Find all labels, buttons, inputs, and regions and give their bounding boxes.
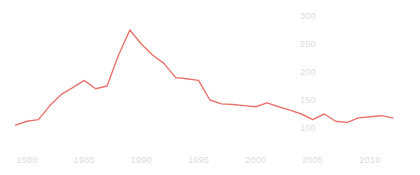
- data-line-series-1: [16, 30, 393, 125]
- y-tick-label-250: 250: [300, 39, 316, 49]
- x-tick-label-1990: 1990: [131, 155, 152, 165]
- x-tick-label-2010: 2010: [359, 155, 380, 165]
- y-tick-label-100: 100: [300, 123, 316, 133]
- y-tick-label-150: 150: [300, 95, 316, 105]
- x-tick-label-2005: 2005: [302, 155, 323, 165]
- x-tick-label-2000: 2000: [245, 155, 266, 165]
- line-chart: 1980198519901995200020052010 10015020025…: [0, 0, 420, 175]
- x-tick-label-1985: 1985: [74, 155, 95, 165]
- y-tick-label-300: 300: [300, 11, 316, 21]
- y-tick-label-200: 200: [300, 67, 316, 77]
- x-tick-label-1980: 1980: [16, 155, 37, 165]
- plot-area: [0, 0, 420, 175]
- x-tick-label-1995: 1995: [188, 155, 209, 165]
